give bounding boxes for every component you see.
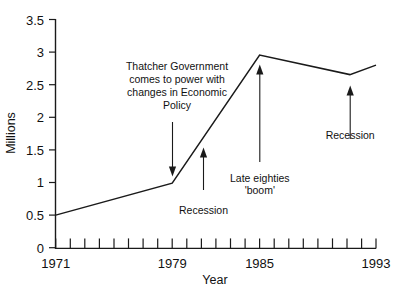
x-axis-tick-labels: 1971 1979 1985 1993 (41, 256, 390, 271)
x-tick-label-1993: 1993 (362, 256, 391, 271)
annotation-recession-1-arrow-up-icon (200, 148, 207, 158)
y-axis-tick-labels: 3.5 3 2.5 2 1.5 1 0.5 0 (26, 13, 44, 256)
y-tick-label-0-5: 0.5 (26, 208, 44, 223)
annotation-thatcher-line-3: changes in Economic (127, 86, 227, 98)
x-tick-label-1979: 1979 (158, 256, 187, 271)
annotation-thatcher-line-2: comes to power with (129, 73, 225, 85)
annotation-recession-early-nineties: Recession (326, 86, 375, 142)
annotation-boom-line-1: Late eighties (230, 172, 290, 184)
y-tick-label-3: 3 (37, 45, 44, 60)
y-tick-label-3-5: 3.5 (26, 13, 44, 28)
annotation-recession-1-label: Recession (179, 204, 228, 216)
y-tick-label-0: 0 (37, 241, 44, 256)
y-tick-label-1: 1 (37, 175, 44, 190)
annotation-thatcher-arrow-down-icon (169, 167, 176, 177)
chart-canvas: 3.5 3 2.5 2 1.5 1 0.5 0 Millions (0, 0, 418, 296)
x-tick-label-1985: 1985 (245, 256, 274, 271)
annotation-recession-early-eighties: Recession (179, 148, 228, 217)
x-axis-title: Year (202, 273, 227, 287)
y-tick-label-2: 2 (37, 110, 44, 125)
y-axis-title: Millions (4, 112, 18, 154)
annotation-thatcher-government: Thatcher Government comes to power with … (126, 60, 228, 177)
annotation-recession-2-label: Recession (326, 129, 375, 141)
y-tick-label-2-5: 2.5 (26, 78, 44, 93)
annotation-recession-2-arrow-up-icon (347, 86, 354, 96)
annotation-thatcher-line-4: Policy (163, 99, 192, 111)
line-chart: 3.5 3 2.5 2 1.5 1 0.5 0 Millions (0, 0, 418, 296)
annotation-thatcher-line-1: Thatcher Government (126, 60, 228, 72)
annotation-boom-line-2: 'boom' (245, 184, 275, 196)
annotation-boom-arrow-up-icon (256, 65, 263, 75)
x-tick-label-1971: 1971 (41, 256, 70, 271)
x-axis (56, 238, 377, 248)
y-tick-label-1-5: 1.5 (26, 143, 44, 158)
y-axis (49, 19, 56, 249)
